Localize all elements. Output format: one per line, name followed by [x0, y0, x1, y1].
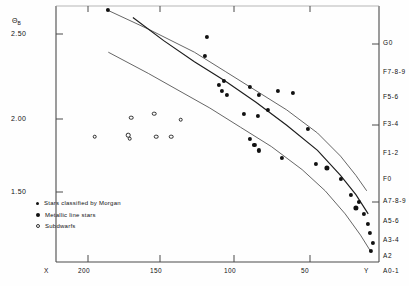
curve-upper-envelope — [107, 10, 367, 191]
fitted-curves — [107, 10, 372, 253]
curve-mean-relation — [133, 18, 368, 214]
data-point — [128, 137, 133, 142]
data-point — [129, 115, 134, 120]
figure-panel: ΘB 2.50 2.00 1.50 X 200 150 100 50 Y G0 … — [0, 0, 409, 286]
data-point — [92, 135, 97, 140]
data-point — [178, 117, 183, 122]
data-point — [169, 135, 174, 140]
right-axis-ticks — [372, 44, 379, 202]
curve-lower-envelope — [108, 52, 371, 252]
x-axis-ticks — [88, 6, 310, 262]
data-point — [154, 135, 159, 140]
y-axis-ticks — [56, 34, 63, 192]
axis-lines — [56, 6, 379, 262]
plot-canvas — [0, 0, 409, 286]
data-point — [152, 112, 157, 117]
